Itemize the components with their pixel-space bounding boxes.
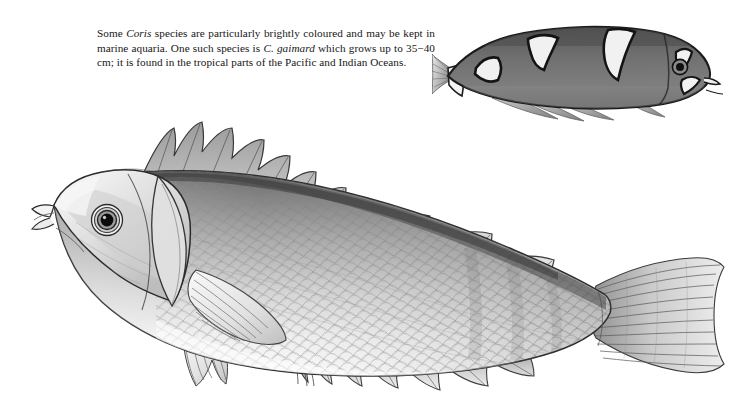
juvenile-fish-mouth: [704, 78, 720, 84]
caption-line1-b: species are particularly brightly colour…: [151, 27, 435, 39]
caption-line1-a: Some: [97, 27, 126, 39]
species-name-c-gaimard: C. gaimard: [263, 42, 314, 54]
caption-line2-b: which grows up to: [315, 42, 403, 54]
caudal-fin: [591, 258, 724, 373]
caption-line2-a: marine aquaria. One such species is: [97, 42, 263, 54]
fish-eye: [92, 205, 123, 236]
caption-text: Some Coris species are particularly brig…: [97, 26, 435, 70]
adult-fish-illustration: [6, 110, 736, 405]
genus-name-coris: Coris: [126, 27, 151, 39]
illustration-page: Some Coris species are particularly brig…: [0, 0, 741, 418]
juvenile-fish-eye: [672, 59, 687, 74]
juvenile-fish-illustration: [432, 6, 726, 122]
